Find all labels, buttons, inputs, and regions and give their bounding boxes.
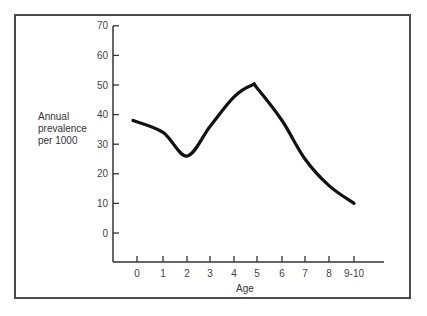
y-tick-label: 40: [97, 109, 109, 120]
y-tick-label: 20: [97, 168, 109, 179]
y-tick-label: 60: [97, 50, 109, 61]
x-tick-label: 9-10: [344, 268, 364, 279]
x-tick-label: 5: [254, 268, 260, 279]
line-chart: 010203040506070 0123456789-10 Age: [0, 0, 427, 316]
x-tick-label: 2: [184, 268, 190, 279]
y-axis-ticks: 010203040506070: [97, 20, 119, 238]
x-tick-label: 0: [134, 268, 140, 279]
x-axis-ticks: 0123456789-10: [134, 256, 364, 279]
x-tick-label: 7: [302, 268, 308, 279]
y-tick-label: 30: [97, 139, 109, 150]
x-tick-label: 1: [160, 268, 166, 279]
y-tick-label: 50: [97, 80, 109, 91]
y-tick-label: 10: [97, 198, 109, 209]
y-tick-label: 70: [97, 20, 109, 31]
x-tick-label: 6: [279, 268, 285, 279]
prevalence-curve: [133, 84, 354, 204]
x-tick-label: 3: [207, 268, 213, 279]
axes: [113, 26, 384, 262]
x-axis-label: Age: [236, 283, 254, 294]
y-tick-label: 0: [102, 228, 108, 239]
x-tick-label: 8: [326, 268, 332, 279]
x-tick-label: 4: [231, 268, 237, 279]
